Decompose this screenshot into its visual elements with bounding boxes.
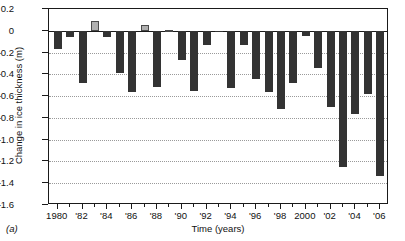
gridline-y (49, 140, 387, 141)
bar-1986 (128, 31, 136, 92)
x-axis-tick-mark (181, 204, 182, 209)
y-axis-tick-mark (42, 204, 48, 205)
bar-1988 (153, 31, 161, 88)
bar-1992 (203, 31, 211, 45)
bar-1987 (141, 25, 149, 30)
y-axis-tick-label: –1.2 (0, 155, 14, 166)
x-axis-tick-mark (379, 204, 380, 209)
bar-1985 (116, 31, 124, 73)
x-axis-tick-label: '88 (150, 210, 162, 221)
bar-1991 (190, 31, 198, 91)
gridline-y (49, 74, 387, 75)
bar-2000 (302, 31, 310, 36)
bar-1997 (265, 31, 273, 92)
x-axis-minor-tick (292, 204, 293, 207)
x-axis-tick-mark (230, 204, 231, 209)
x-axis-minor-tick (243, 204, 244, 207)
x-axis-tick-mark (82, 204, 83, 209)
y-axis-tick-label: –0.6 (0, 90, 14, 101)
bar-1981 (66, 31, 74, 38)
x-axis-tick-mark (57, 204, 58, 209)
x-axis-tick-label: 2000 (294, 210, 315, 221)
gridline-y (49, 118, 387, 119)
x-axis-minor-tick (144, 204, 145, 207)
x-axis-minor-tick (94, 204, 95, 207)
y-axis-tick-label: –1.4 (0, 177, 14, 188)
x-axis-tick-mark (131, 204, 132, 209)
y-axis-title: Change in ice thickness (m) (13, 11, 24, 201)
y-axis-tick-mark (42, 52, 48, 53)
x-axis-minor-tick (218, 204, 219, 207)
bar-1990 (178, 31, 186, 60)
ice-thickness-bar-chart: Change in ice thickness (m) 0.20–0.2–0.4… (0, 0, 405, 241)
x-axis-tick-mark (305, 204, 306, 209)
bar-1998 (277, 31, 285, 109)
bar-1994 (227, 31, 235, 89)
x-axis-minor-tick (193, 204, 194, 207)
x-axis-minor-tick (69, 204, 70, 207)
bar-1984 (103, 31, 111, 38)
gridline-y (49, 96, 387, 97)
x-axis-title: Time (years) (48, 223, 388, 234)
x-axis-tick-label: '84 (100, 210, 112, 221)
x-axis-tick-label: '04 (348, 210, 360, 221)
x-axis-minor-tick (119, 204, 120, 207)
y-axis-tick-label: –0.2 (0, 46, 14, 57)
x-axis-tick-label: '98 (274, 210, 286, 221)
x-axis-tick-label: '94 (224, 210, 236, 221)
x-axis-minor-tick (268, 204, 269, 207)
bar-2002 (327, 31, 335, 107)
x-axis-tick-mark (330, 204, 331, 209)
y-axis-tick-label: –0.8 (0, 111, 14, 122)
x-axis-tick-mark (354, 204, 355, 209)
x-axis-tick-label: '06 (373, 210, 385, 221)
bar-2006 (376, 31, 384, 176)
bar-1993 (215, 31, 223, 32)
y-axis-tick-label: –1.0 (0, 133, 14, 144)
y-axis-tick-label: 0 (0, 24, 14, 35)
gridline-y (49, 161, 387, 162)
x-axis-minor-tick (317, 204, 318, 207)
bar-1996 (252, 31, 260, 79)
x-axis-tick-label: 1980 (46, 210, 67, 221)
panel-label: (a) (6, 223, 18, 234)
y-axis-tick-label: –1.6 (0, 199, 14, 210)
bar-1982 (79, 31, 87, 83)
x-axis-tick-label: '92 (199, 210, 211, 221)
x-axis-tick-label: '82 (75, 210, 87, 221)
x-axis-tick-mark (255, 204, 256, 209)
x-axis-minor-tick (342, 204, 343, 207)
x-axis-tick-label: '96 (249, 210, 261, 221)
x-axis-tick-label: '86 (125, 210, 137, 221)
x-axis-tick-mark (106, 204, 107, 209)
plot-area (48, 8, 388, 204)
bar-2004 (351, 31, 359, 114)
bar-2001 (314, 31, 322, 68)
bar-1995 (240, 31, 248, 45)
y-axis-tick-mark (42, 160, 48, 161)
x-axis-minor-tick (168, 204, 169, 207)
bar-1999 (289, 31, 297, 83)
x-axis-tick-mark (206, 204, 207, 209)
x-axis-minor-tick (367, 204, 368, 207)
x-axis-tick-mark (280, 204, 281, 209)
y-axis-tick-mark (42, 95, 48, 96)
bar-1983 (91, 21, 99, 31)
y-axis-tick-mark (42, 182, 48, 183)
plot-inner (49, 9, 387, 203)
bar-2003 (339, 31, 347, 167)
y-axis-tick-label: –0.4 (0, 68, 14, 79)
y-axis-tick-mark (42, 117, 48, 118)
y-axis-tick-mark (42, 30, 48, 31)
y-axis-tick-label: 0.2 (0, 3, 14, 14)
bar-1980 (54, 31, 62, 50)
gridline-y (49, 183, 387, 184)
x-axis-tick-label: '90 (175, 210, 187, 221)
y-axis-tick-mark (42, 139, 48, 140)
y-axis-tick-mark (42, 8, 48, 9)
bar-2005 (364, 31, 372, 94)
gridline-y (49, 53, 387, 54)
bar-1989 (165, 30, 173, 32)
y-axis-tick-mark (42, 73, 48, 74)
x-axis-tick-mark (156, 204, 157, 209)
